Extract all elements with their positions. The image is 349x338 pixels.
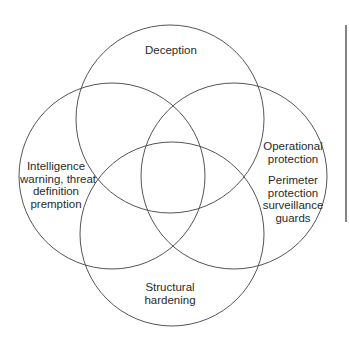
label-line: Structural: [140, 281, 200, 294]
label-line: premption: [20, 198, 92, 211]
label-intelligence: Intelligence warning, threat definition …: [20, 160, 92, 210]
label-line: surveillance: [262, 199, 324, 212]
label-deception: Deception: [145, 44, 197, 57]
label-operational: Operational protection: [262, 140, 324, 165]
label-line: Perimeter: [262, 174, 324, 187]
label-line: protection: [262, 187, 324, 200]
label-line: guards: [262, 212, 324, 225]
label-perimeter: Perimeter protection surveillance guards: [262, 174, 324, 224]
label-line: Operational: [262, 140, 324, 153]
label-structural: Structural hardening: [140, 281, 200, 306]
label-line: definition: [20, 185, 92, 198]
label-line: Intelligence: [20, 160, 92, 173]
label-line: protection: [262, 153, 324, 166]
label-line: hardening: [140, 294, 200, 307]
label-line: warning, threat: [20, 173, 92, 186]
